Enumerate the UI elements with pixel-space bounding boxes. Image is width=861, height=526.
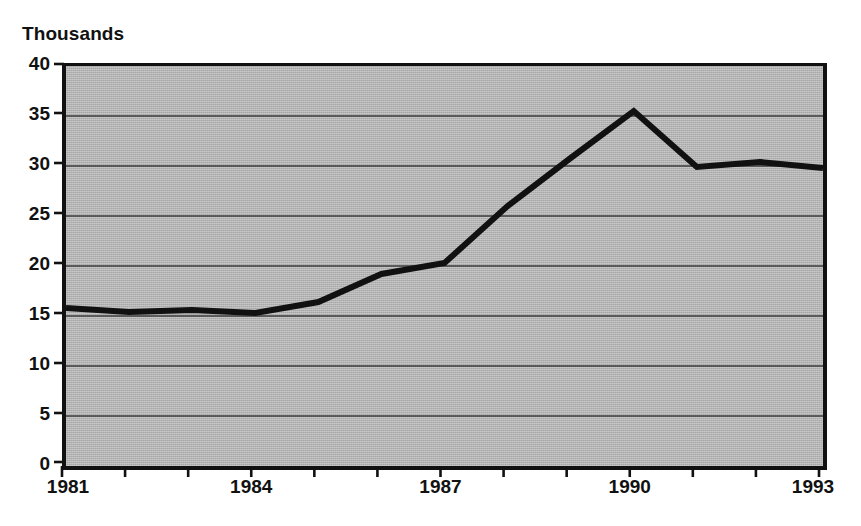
x-axis-labels: 19811984198719901993: [0, 0, 861, 526]
x-axis-tick-label: 1987: [419, 477, 461, 496]
x-axis-tick-label: 1993: [792, 477, 834, 496]
line-chart-figure: Thousands: [0, 0, 861, 526]
x-axis-tick-label: 1984: [230, 477, 272, 496]
x-axis-tick-label: 1981: [47, 477, 89, 496]
x-axis-tick-label: 1990: [609, 477, 651, 496]
